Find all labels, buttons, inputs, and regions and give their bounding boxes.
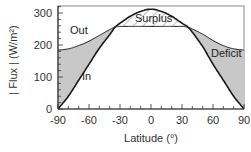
out-label: Out xyxy=(70,24,88,36)
x-tick-label: 30 xyxy=(176,114,188,126)
x-tick-label: -60 xyxy=(81,114,97,126)
y-axis-title: | Flux | (W/m²) xyxy=(7,25,19,94)
y-tick-label: 200 xyxy=(34,39,52,51)
x-tick-label: -90 xyxy=(50,114,66,126)
y-tick-label: 300 xyxy=(34,7,52,19)
x-tick-label: 90 xyxy=(238,114,250,126)
x-axis-title: Latitude (°) xyxy=(124,132,178,144)
flux-chart: 0 100 200 300 -90 -60 -30 0 30 60 90 Lat… xyxy=(0,0,251,152)
x-tick-label: -30 xyxy=(112,114,128,126)
x-tick-label: 0 xyxy=(148,114,154,126)
in-label: In xyxy=(82,70,91,82)
x-tick-label: 60 xyxy=(207,114,219,126)
y-tick-label: 100 xyxy=(34,71,52,83)
surplus-label: Surplus xyxy=(135,12,173,24)
deficit-label: Deficit xyxy=(211,47,242,59)
